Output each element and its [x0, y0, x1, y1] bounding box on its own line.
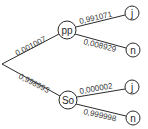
edge-label-pp-n: 0,008929 [83, 37, 118, 54]
node-label-so-j: j [130, 82, 133, 93]
node-label-pp-j: j [130, 8, 133, 19]
edge-label-pp-j: 0,991071 [78, 10, 113, 26]
node-pp-j: j [125, 6, 139, 20]
node-pp-n: n [126, 43, 140, 57]
node-label-so-n: n [130, 113, 136, 124]
edge-label-root-pp: 0,001007 [14, 34, 48, 57]
node-label-so: So [62, 95, 75, 106]
node-label-pp: pp [61, 25, 73, 36]
node-so-j: j [125, 80, 139, 94]
node-so-n: n [126, 111, 140, 125]
probability-tree: 0,001007 0,998993 0,991071 0,008929 0,00… [0, 0, 148, 129]
node-label-pp-n: n [130, 45, 136, 56]
node-so: So [59, 91, 77, 109]
node-pp: pp [58, 21, 76, 39]
edge-label-root-so: 0,998993 [17, 72, 51, 95]
